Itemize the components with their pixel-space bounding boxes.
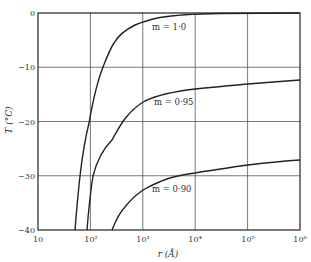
y-tick-m10: −10: [18, 63, 35, 72]
y-tick-m20: −20: [18, 118, 35, 127]
y-tick-0: 0: [30, 9, 35, 18]
x-tick-10: 10: [33, 235, 43, 244]
x-tick-1e4: 10⁴: [188, 235, 201, 244]
x-tick-1e2: 10²: [84, 235, 97, 244]
x-axis-title: r (Å): [158, 248, 179, 259]
x-tick-1e6: 10⁶: [293, 235, 306, 244]
curve-label-m-1-0: m = 1·0: [152, 22, 186, 32]
curve-label-m-0-90: m = 0·90: [152, 184, 192, 194]
y-axis-title: T (°C): [4, 106, 14, 134]
x-tick-1e3: 10³: [136, 235, 149, 244]
curve-label-m-0-95: m = 0·95: [154, 97, 194, 107]
x-tick-1e5: 10⁵: [241, 235, 254, 244]
y-tick-m30: −30: [18, 172, 35, 181]
y-tick-m40: −40: [18, 226, 35, 235]
x-tick-labels: 10 10² 10³ 10⁴ 10⁵ 10⁶: [33, 235, 307, 244]
curve-m-0-90: [112, 160, 300, 230]
chart: 10 10² 10³ 10⁴ 10⁵ 10⁶ 0 −10 −20 −30 −40…: [0, 0, 311, 262]
y-tick-labels: 0 −10 −20 −30 −40: [18, 9, 35, 235]
